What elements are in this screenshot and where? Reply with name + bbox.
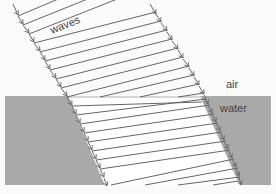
air-wavefronts — [18, 0, 204, 97]
water-label: water — [220, 102, 247, 114]
air-arrows-right — [150, 4, 204, 94]
refraction-diagram: waves — [0, 0, 276, 194]
air-label: air — [226, 78, 238, 90]
waves-label: waves — [47, 13, 82, 36]
